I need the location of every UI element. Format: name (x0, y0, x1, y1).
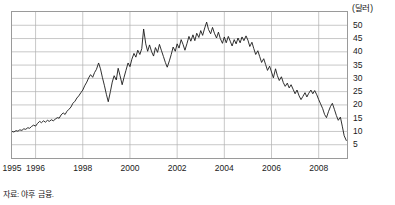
x-tick-label: 2006 (262, 163, 281, 173)
y-axis-unit-label: (달러) (352, 1, 373, 13)
y-tick-label: 30 (353, 74, 362, 83)
y-tick-label: 45 (353, 34, 362, 43)
x-tick-label: 1995 (3, 163, 22, 173)
x-tick-label: 1998 (73, 163, 92, 173)
y-tick-label: 50 (353, 21, 362, 30)
y-tick-label: 40 (353, 47, 362, 56)
x-tick-label: 1996 (26, 163, 45, 173)
stock-price-chart-figure: (달러) 5045403530252015105 199519961998200… (0, 0, 395, 205)
x-tick-label: 2008 (309, 163, 328, 173)
y-tick-label: 15 (353, 114, 362, 123)
vertical-gridlines (36, 12, 319, 158)
y-tick-label: 25 (353, 87, 362, 96)
x-tick-label: 2002 (168, 163, 187, 173)
price-line (12, 22, 346, 140)
y-tick-label: 5 (353, 140, 358, 149)
source-note: 자료: 야후 금융. (3, 188, 54, 199)
horizontal-gridlines (12, 25, 347, 144)
plot-area (11, 11, 348, 159)
y-tick-label: 20 (353, 100, 362, 109)
y-tick-label: 10 (353, 127, 362, 136)
x-tick-label: 2004 (215, 163, 234, 173)
y-tick-label: 35 (353, 61, 362, 70)
x-tick-label: 2000 (120, 163, 139, 173)
plot-svg (12, 12, 347, 158)
